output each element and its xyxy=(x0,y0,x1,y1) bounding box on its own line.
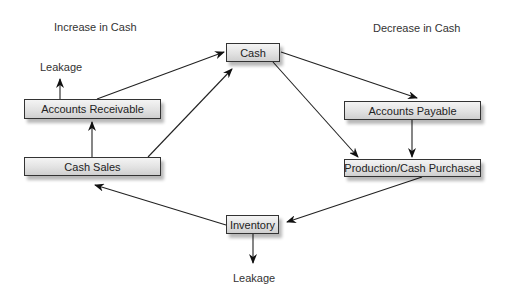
node-cash: Cash xyxy=(226,43,280,62)
node-production-cash-purchases: Production/Cash Purchases xyxy=(344,159,481,177)
arrow-inventory-to-cashsales xyxy=(95,185,226,225)
arrow-ar-to-cash xyxy=(97,52,224,99)
arrow-production-to-inventory xyxy=(287,177,422,222)
node-accounts-receivable: Accounts Receivable xyxy=(24,99,161,119)
leakage-label-top: Leakage xyxy=(40,61,82,73)
cash-flow-diagram: Increase in Cash Decrease in Cash Leakag… xyxy=(0,0,512,300)
arrow-cash-to-ap xyxy=(281,52,417,98)
heading-increase-in-cash: Increase in Cash xyxy=(54,21,137,33)
node-inventory: Inventory xyxy=(226,215,279,234)
leakage-label-bottom: Leakage xyxy=(233,272,275,284)
node-accounts-payable: Accounts Payable xyxy=(344,101,481,120)
heading-decrease-in-cash: Decrease in Cash xyxy=(373,22,460,34)
node-cash-sales: Cash Sales xyxy=(24,157,161,176)
